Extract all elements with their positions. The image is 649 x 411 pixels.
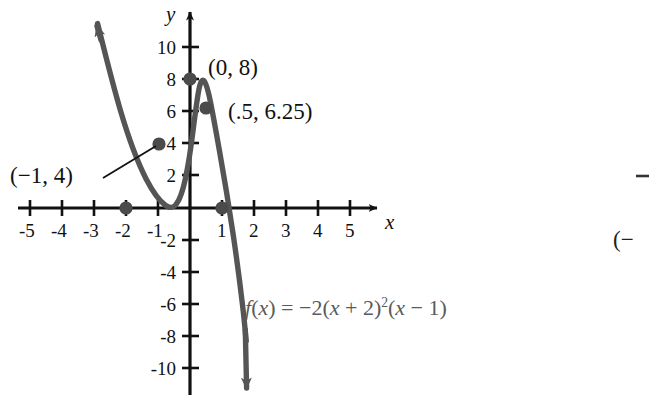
curve-arrow-down [245, 330, 246, 388]
x-tick-label-2: 2 [249, 221, 259, 240]
graph-figure: -5 -4 -3 -2 -1 1 2 3 4 5 10 8 6 4 2 -2 -… [0, 0, 649, 411]
annotation-point-minus1-4: (−1, 4) [10, 164, 73, 187]
y-tick-label-6: 6 [148, 102, 176, 121]
y-tick-label-2: 2 [148, 166, 176, 185]
curve-arrow-up [97, 26, 101, 40]
x-tick-label-3: 3 [281, 221, 291, 240]
y-tick-label--10: -10 [134, 359, 176, 378]
x-tick-label-4: 4 [313, 221, 323, 240]
y-tick-label--2: -2 [141, 231, 176, 250]
annotation-point-half-625: (.5, 6.25) [228, 100, 312, 123]
x-tick-label-1: 1 [217, 221, 227, 240]
x-tick-label-5: 5 [345, 221, 355, 240]
equation-label: f(x) = −2(x + 2)2(x − 1) [245, 296, 447, 319]
x-axis [18, 200, 377, 216]
equation-minus-one: − 1) [405, 295, 447, 320]
x-tick-label--5: -5 [19, 221, 35, 240]
equation-equals: = [276, 295, 299, 320]
y-tick-label--6: -6 [141, 295, 176, 314]
y-tick-label--8: -8 [141, 327, 176, 346]
y-axis-label: y [166, 4, 175, 25]
equation-var2: x [395, 295, 405, 320]
plot-canvas [0, 0, 649, 411]
x-tick-label--3: -3 [83, 221, 99, 240]
point-marker-root-minus2 [119, 201, 132, 214]
x-tick-label--4: -4 [51, 221, 67, 240]
y-axis [182, 12, 199, 395]
equation-var1: x [330, 295, 340, 320]
annotation-point-0-8: (0, 8) [208, 56, 258, 79]
point-marker-0-8 [183, 72, 196, 85]
x-axis-label: x [385, 212, 394, 233]
equation-exponent: 2 [381, 295, 388, 310]
y-tick-label--4: -4 [141, 263, 176, 282]
y-tick-label-8: 8 [148, 70, 176, 89]
point-marker-half-625 [199, 101, 212, 114]
y-tick-label-10: 10 [148, 38, 176, 57]
x-tick-label--2: -2 [115, 221, 131, 240]
equation-plus-two: + 2) [339, 295, 381, 320]
equation-fx-var: x [258, 295, 268, 320]
point-marker-root-1 [215, 201, 228, 214]
equation-close-paren: ) [268, 295, 275, 320]
edge-fragment-paren-minus: (− [613, 228, 634, 251]
y-tick-label-4: 4 [148, 134, 176, 153]
equation-coefficient: −2( [299, 295, 330, 320]
